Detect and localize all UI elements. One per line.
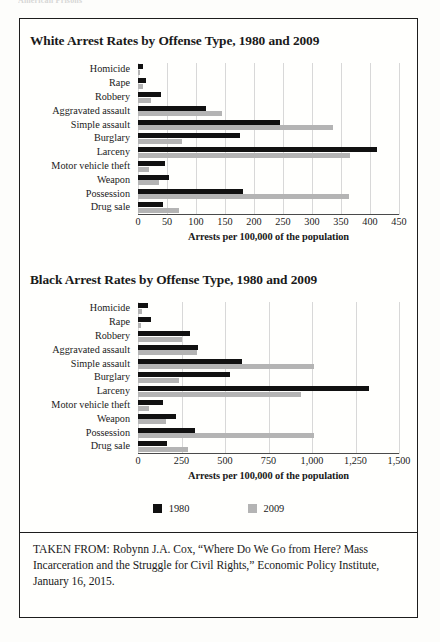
category-label: Rape xyxy=(109,317,130,327)
chart-2-xlabel: Arrests per 100,000 of the population xyxy=(138,470,399,481)
category-label: Simple assault xyxy=(71,120,130,130)
bar-2009 xyxy=(138,208,179,213)
bar-1980 xyxy=(138,133,240,138)
chart-2-bars xyxy=(138,302,399,454)
chart-2-category-labels: HomicideRapeRobberyAggravated assaultSim… xyxy=(30,302,134,454)
category-label: Weapon xyxy=(97,414,130,424)
bar-2009 xyxy=(138,392,301,397)
legend-label: 2009 xyxy=(264,503,285,514)
bar-2009 xyxy=(138,350,197,355)
bar-2009 xyxy=(138,419,166,424)
chart-black-arrest-rates: Black Arrest Rates by Offense Type, 1980… xyxy=(30,272,405,481)
source-citation: TAKEN FROM: Robynn J.A. Cox, “Where Do W… xyxy=(33,542,404,590)
xtick-label: 250 xyxy=(174,455,189,466)
running-head: American Prisons xyxy=(18,0,82,5)
bar-2009 xyxy=(138,153,350,158)
xtick-label: 100 xyxy=(188,216,203,227)
category-label: Aggravated assault xyxy=(52,345,130,355)
chart-1-xlabel: Arrests per 100,000 of the population xyxy=(138,231,399,242)
category-label: Burglary xyxy=(94,372,130,382)
legend-1980: 1980 xyxy=(153,503,190,514)
xtick-label: 50 xyxy=(162,216,172,227)
category-label: Larceny xyxy=(97,386,130,396)
legend-label: 1980 xyxy=(169,503,190,514)
bar-1980 xyxy=(138,317,151,322)
category-label: Simple assault xyxy=(71,359,130,369)
category-label: Motor vehicle theft xyxy=(51,161,130,171)
bar-1980 xyxy=(138,202,163,207)
xtick-label: 150 xyxy=(217,216,232,227)
bar-1980 xyxy=(138,372,230,377)
bar-1980 xyxy=(138,189,243,194)
chart-1-category-labels: HomicideRapeRobberyAggravated assaultSim… xyxy=(30,63,134,215)
page: American Prisons White Arrest Rates by O… xyxy=(0,0,440,642)
bar-1980 xyxy=(138,331,190,336)
bar-2009 xyxy=(138,98,151,103)
xtick-label: 1,500 xyxy=(388,455,411,466)
category-label: Robbery xyxy=(95,92,130,102)
bar-2009 xyxy=(138,433,314,438)
bar-2009 xyxy=(138,406,149,411)
bar-1980 xyxy=(138,303,148,308)
source-divider xyxy=(20,532,417,533)
bar-2009 xyxy=(138,84,143,89)
bar-1980 xyxy=(138,64,143,69)
bar-2009 xyxy=(138,323,141,328)
xtick-label: 0 xyxy=(135,455,140,466)
chart-legend: 19802009 xyxy=(20,503,417,514)
xtick-label: 0 xyxy=(135,216,140,227)
xtick-label: 1,250 xyxy=(344,455,367,466)
bar-2009 xyxy=(138,180,159,185)
category-label: Homicide xyxy=(90,64,130,74)
bar-1980 xyxy=(138,386,369,391)
xtick-label: 250 xyxy=(275,216,290,227)
chart-2-panel xyxy=(138,302,399,454)
chart-1-panel xyxy=(138,63,399,215)
chart-2-title: Black Arrest Rates by Offense Type, 1980… xyxy=(30,272,405,288)
bar-1980 xyxy=(138,359,242,364)
category-label: Homicide xyxy=(90,303,130,313)
gridline xyxy=(399,302,400,454)
bar-2009 xyxy=(138,378,179,383)
bar-1980 xyxy=(138,106,206,111)
bar-1980 xyxy=(138,400,163,405)
category-label: Drug sale xyxy=(91,441,130,451)
gridline xyxy=(399,63,400,215)
bar-1980 xyxy=(138,428,195,433)
bar-2009 xyxy=(138,194,349,199)
category-label: Possession xyxy=(86,189,130,199)
bar-2009 xyxy=(138,139,182,144)
category-label: Burglary xyxy=(94,133,130,143)
category-label: Motor vehicle theft xyxy=(51,400,130,410)
bar-1980 xyxy=(138,175,169,180)
bar-2009 xyxy=(138,364,314,369)
bar-1980 xyxy=(138,345,198,350)
xtick-label: 400 xyxy=(362,216,377,227)
bar-1980 xyxy=(138,161,165,166)
legend-swatch-icon xyxy=(248,504,257,513)
xtick-label: 300 xyxy=(304,216,319,227)
bar-2009 xyxy=(138,447,188,452)
legend-swatch-icon xyxy=(153,504,162,513)
chart-2-plot: HomicideRapeRobberyAggravated assaultSim… xyxy=(30,302,405,454)
bar-1980 xyxy=(138,441,167,446)
chart-1-bars xyxy=(138,63,399,215)
bar-1980 xyxy=(138,147,377,152)
chart-2-xticks: 02505007501,0001,2501,500 xyxy=(138,454,399,468)
bar-2009 xyxy=(138,337,182,342)
xtick-label: 450 xyxy=(391,216,406,227)
bar-1980 xyxy=(138,414,176,419)
category-label: Larceny xyxy=(97,147,130,157)
chart-white-arrest-rates: White Arrest Rates by Offense Type, 1980… xyxy=(30,33,405,242)
bar-2009 xyxy=(138,309,142,314)
bar-1980 xyxy=(138,92,161,97)
xtick-label: 1,000 xyxy=(301,455,324,466)
xtick-label: 500 xyxy=(217,455,232,466)
bar-2009 xyxy=(138,167,149,172)
xtick-label: 750 xyxy=(261,455,276,466)
category-label: Drug sale xyxy=(91,202,130,212)
category-label: Rape xyxy=(109,78,130,88)
category-label: Aggravated assault xyxy=(52,106,130,116)
chart-1-title: White Arrest Rates by Offense Type, 1980… xyxy=(30,33,405,49)
figure-frame: White Arrest Rates by Offense Type, 1980… xyxy=(19,18,418,618)
